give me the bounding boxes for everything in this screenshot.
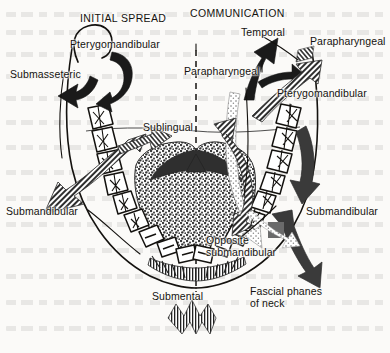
label-sublingual: Sublingual [143, 122, 193, 134]
label-submasseteric: Submasseteric [10, 69, 81, 81]
submental-plume [168, 300, 216, 334]
tooth-premolar [260, 172, 285, 194]
header-communication: COMMUNICATION [190, 8, 285, 20]
arrow-submasseteric [58, 76, 98, 108]
label-submandibular-left: Submandibular [6, 206, 78, 218]
tooth-molar [92, 127, 117, 152]
arrow-pterygomandibular-left [96, 52, 132, 112]
arrow-parapharyngeal-tag [296, 46, 314, 62]
label-opposite-submandibular: Opposite submandibular [206, 235, 276, 258]
label-pterygomandibular-right: Pterygomandibular [277, 88, 367, 100]
arrow-fascial-planes [272, 210, 322, 288]
tooth-molar [276, 104, 301, 128]
tooth-molar [267, 150, 292, 173]
tooth-molar [272, 127, 297, 151]
label-pterygomandibular-left: Pterygomandibular [70, 39, 160, 51]
label-submental: Submental [152, 291, 203, 303]
tooth-premolar [104, 172, 128, 195]
label-parapharyngeal-right: Parapharyngeal [310, 36, 386, 48]
header-initial-spread: INITIAL SPREAD [80, 13, 166, 25]
label-fascial-planes-of-neck: Fascial phanes of neck [250, 286, 322, 309]
figure-canvas: INITIAL SPREAD COMMUNICATION Pterygomand… [0, 0, 390, 353]
tooth-premolar [113, 191, 137, 214]
label-temporal: Temporal [241, 27, 285, 39]
label-parapharyngeal-mid: Parapharyngeal [184, 66, 260, 78]
label-submandibular-right: Submandibular [306, 206, 378, 218]
